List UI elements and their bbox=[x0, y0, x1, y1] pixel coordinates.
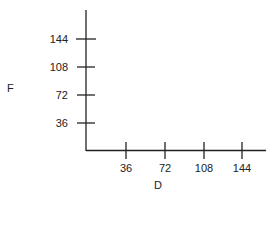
x-tick-label-108: 108 bbox=[189, 163, 219, 174]
x-tick-label-72: 72 bbox=[150, 163, 180, 174]
y-tick-label-144: 144 bbox=[38, 34, 68, 45]
x-tick-label-144: 144 bbox=[227, 163, 257, 174]
y-tick-label-72: 72 bbox=[38, 90, 68, 101]
x-tick-label-36: 36 bbox=[111, 163, 141, 174]
y-tick-label-36: 36 bbox=[38, 118, 68, 129]
x-axis-label: D bbox=[143, 180, 173, 191]
y-tick-label-108: 108 bbox=[38, 62, 68, 73]
y-axis-label: F bbox=[7, 83, 14, 94]
